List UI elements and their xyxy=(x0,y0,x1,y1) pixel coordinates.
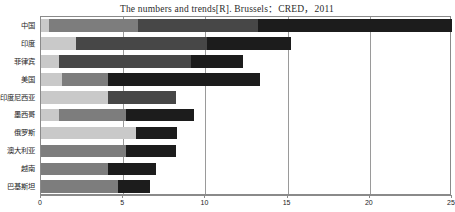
bar-row xyxy=(41,71,450,89)
y-axis-label: 中国 xyxy=(21,20,35,30)
bar-segment xyxy=(41,145,126,158)
bar-segment xyxy=(136,127,177,140)
y-axis-label: 澳大利亚 xyxy=(7,145,35,155)
bar-segment xyxy=(49,19,138,32)
bar-row xyxy=(41,53,450,71)
stacked-bar[interactable] xyxy=(41,91,176,104)
x-axis-tick-label: 20 xyxy=(365,199,373,206)
plot-area xyxy=(40,16,451,195)
bar-row xyxy=(41,160,450,178)
bar-segment xyxy=(126,109,193,122)
bar-segment xyxy=(191,55,244,68)
stacked-bar[interactable] xyxy=(41,180,150,193)
bar-segment xyxy=(41,19,49,32)
bar-segment xyxy=(41,163,108,176)
x-axis-tick xyxy=(369,195,370,198)
stacked-bar[interactable] xyxy=(41,127,177,140)
bar-segment xyxy=(41,109,59,122)
bar-segment xyxy=(59,109,126,122)
bar-segment xyxy=(207,37,291,50)
x-axis-tick xyxy=(451,195,452,198)
bar-segment xyxy=(126,145,175,158)
bar-segment xyxy=(62,73,108,86)
bar-row xyxy=(41,178,450,196)
x-axis-tick xyxy=(40,195,41,198)
y-axis-label: 印度 xyxy=(21,38,35,48)
bar-row xyxy=(41,107,450,125)
bar-segment xyxy=(108,91,175,104)
bar-segment xyxy=(108,163,156,176)
bar-segment xyxy=(118,180,149,193)
stacked-bar[interactable] xyxy=(41,19,452,32)
bar-row xyxy=(41,35,450,53)
bar-segment xyxy=(41,180,118,193)
y-axis-label: 巴基斯坦 xyxy=(7,181,35,191)
bar-segment xyxy=(41,37,76,50)
x-axis-tick-label: 10 xyxy=(200,199,208,206)
bar-segment xyxy=(258,19,452,32)
y-axis-label: 越南 xyxy=(21,163,35,173)
x-axis-tick xyxy=(122,195,123,198)
bar-segment xyxy=(108,73,259,86)
stacked-bar[interactable] xyxy=(41,55,243,68)
y-axis-label: 美国 xyxy=(21,74,35,84)
x-axis-tick xyxy=(287,195,288,198)
bar-row xyxy=(41,124,450,142)
bar-row xyxy=(41,89,450,107)
stacked-bar[interactable] xyxy=(41,163,156,176)
x-axis-tick xyxy=(204,195,205,198)
bar-segment xyxy=(41,91,108,104)
chart-title: The numbers and trends[R]. Brussels：CRED… xyxy=(0,1,454,15)
x-axis-tick-label: 0 xyxy=(38,199,42,206)
bar-segment xyxy=(76,37,208,50)
y-axis-label: 菲律宾 xyxy=(14,56,35,66)
x-axis-tick-label: 5 xyxy=(120,199,124,206)
bar-segment xyxy=(41,55,59,68)
stacked-bar[interactable] xyxy=(41,145,176,158)
y-axis-labels: 中国印度菲律宾美国印度尼西亚墨西哥俄罗斯澳大利亚越南巴基斯坦 xyxy=(0,16,37,195)
stacked-bar[interactable] xyxy=(41,37,291,50)
y-axis-label: 墨西哥 xyxy=(14,109,35,119)
y-axis-label: 印度尼西亚 xyxy=(0,92,35,102)
bar-segment xyxy=(138,19,258,32)
x-axis-tick-label: 25 xyxy=(447,199,455,206)
bar-segment xyxy=(41,73,62,86)
y-axis-label: 俄罗斯 xyxy=(14,127,35,137)
bar-row xyxy=(41,142,450,160)
x-axis-tick-label: 15 xyxy=(283,199,291,206)
stacked-bar[interactable] xyxy=(41,73,260,86)
bar-segment xyxy=(41,127,136,140)
x-axis: 0510152025 xyxy=(40,195,451,196)
stacked-bar[interactable] xyxy=(41,109,194,122)
bar-segment xyxy=(59,55,191,68)
bar-row xyxy=(41,17,450,35)
